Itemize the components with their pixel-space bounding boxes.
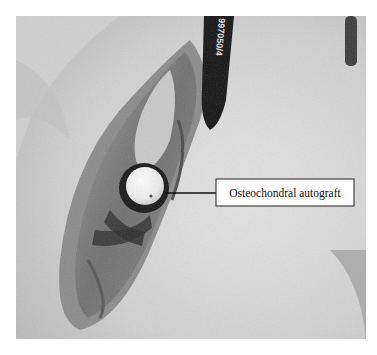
photo: 997050/4: [16, 16, 366, 339]
surgical-photo-figure: 997050/4 Osteochondral autograft: [0, 0, 377, 355]
annotation-label: Osteochondral autograft: [229, 187, 341, 200]
photo-grain: [16, 16, 366, 339]
